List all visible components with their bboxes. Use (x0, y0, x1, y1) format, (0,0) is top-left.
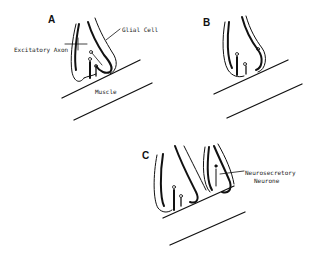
panel-b-drawing (214, 16, 302, 118)
excitatory-axon-label: Excitatory Axon (14, 46, 68, 53)
panel-label-a: A (48, 14, 55, 25)
panel-c-drawing (154, 144, 245, 245)
panel-label-c: C (142, 150, 149, 161)
neurosecretory-label-line1: Neurosecretory (245, 169, 296, 176)
muscle-label: Muscle (95, 88, 117, 95)
panel-a-drawing (62, 18, 152, 120)
neurosecretory-label-line2: Neurone (254, 177, 279, 184)
diagram-canvas (0, 0, 313, 257)
glial-cell-label: Glial Cell (122, 26, 158, 33)
panel-label-b: B (203, 17, 210, 28)
